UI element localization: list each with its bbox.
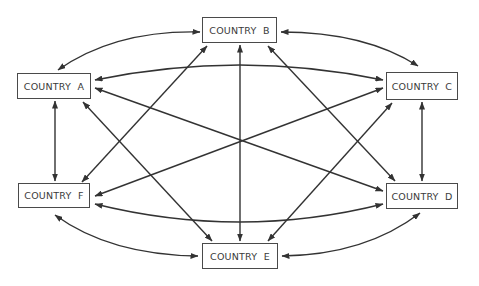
edge-b-c xyxy=(281,32,418,66)
edge-f-c xyxy=(95,88,383,196)
country-d-node: COUNTRY D xyxy=(386,183,458,209)
edge-a-d xyxy=(95,88,383,191)
edge-f-d xyxy=(95,204,383,222)
edge-a-b xyxy=(58,32,200,70)
country-a-node: COUNTRY A xyxy=(17,73,91,99)
edge-e-d xyxy=(282,213,420,256)
country-c-node: COUNTRY C xyxy=(386,72,458,100)
country-f-node: COUNTRY F xyxy=(18,183,90,208)
edge-f-e xyxy=(55,215,198,256)
edge-b-d xyxy=(268,46,395,181)
country-b-node: COUNTRY B xyxy=(202,17,277,43)
country-e-label: COUNTRY E xyxy=(210,251,270,262)
country-c-label: COUNTRY C xyxy=(392,81,452,92)
country-e-node: COUNTRY E xyxy=(202,243,278,269)
country-f-label: COUNTRY F xyxy=(24,190,83,201)
edge-a-c xyxy=(95,65,383,80)
country-d-label: COUNTRY D xyxy=(391,191,452,202)
country-a-label: COUNTRY A xyxy=(24,81,84,92)
country-b-label: COUNTRY B xyxy=(209,25,269,36)
